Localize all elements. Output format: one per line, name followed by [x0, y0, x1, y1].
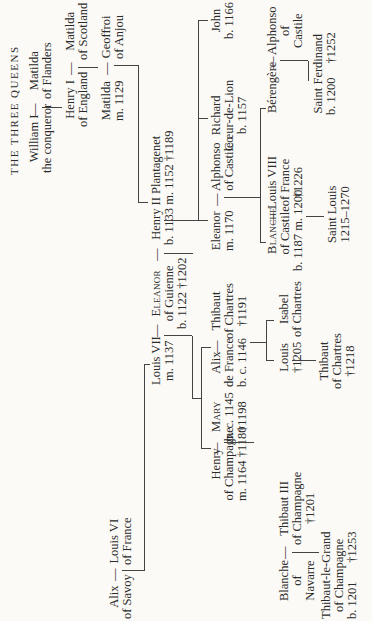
descent-line — [198, 20, 208, 21]
person-eleanor-guienne: Eleanor of Guienne b. 1122 †1202 — [150, 258, 189, 329]
descent-line — [260, 108, 266, 109]
marriage-dash: — — [28, 104, 41, 117]
death: †1252 — [325, 32, 338, 63]
person-thibaut-le-grand: Thibaut-le-Grand of Champagne b. 1201 †1… — [320, 532, 359, 619]
marriage-dash: — — [210, 194, 223, 207]
descent-line — [260, 242, 266, 243]
person-john: John b. 1166 — [210, 2, 236, 39]
marriage-dash: — — [210, 341, 223, 354]
descent-line — [198, 21, 199, 221]
person-saint-ferdinand: Saint Ferdinand b. 1200 †1252 — [312, 32, 338, 115]
descent-line — [292, 552, 318, 553]
death: †1253 — [346, 532, 359, 563]
page-title: THE THREE QUEENS — [8, 45, 21, 175]
descent-line — [201, 348, 202, 449]
name: Bérengère — [266, 62, 279, 113]
descent-line — [78, 67, 98, 68]
person-mary: Mary b. c. 1145 †1198 — [210, 392, 249, 441]
person-alphonso-of-castile: Alphonso of Castile — [266, 6, 305, 55]
person-thibaut-iii: Thibaut III of Champagne †1201 — [278, 472, 317, 545]
person-berengere: Bérengère — [266, 62, 279, 113]
descent-line — [138, 202, 148, 203]
descent-line — [192, 253, 193, 254]
descent-line — [224, 442, 254, 443]
descent-line — [114, 65, 138, 66]
person-blanche-navarre: Blanche of Navarre — [278, 560, 317, 601]
marriage-dash: — — [210, 443, 223, 456]
person-louis-vii: Louis VII m. 1137 — [150, 336, 176, 385]
subtitle-2: Navarre — [304, 560, 317, 601]
person-matilda-scotland: Matilda of Scotland — [64, 3, 90, 60]
person-thibaut-chartres-1218: Thibaut of Chartres †1218 — [318, 333, 357, 389]
person-thibaut-chartres: Thibaut of Chartres †1191 — [210, 283, 249, 339]
subtitle: the conqueror — [41, 104, 54, 173]
subtitle: b. 1133 m. 1152 †1189 — [163, 130, 176, 245]
death: †1226 — [292, 156, 305, 209]
descent-line — [280, 60, 308, 61]
dates: b. c. 1146 — [236, 338, 249, 387]
person-geoffroi: Geoffroi of Anjou — [100, 15, 126, 59]
genealogy-page: THE THREE QUEENS William I the conqueror… — [0, 0, 372, 621]
descent-line — [164, 335, 192, 336]
descent-line — [198, 220, 208, 221]
descent-line — [164, 220, 198, 221]
dates-row: b. 1201 †1253 — [346, 532, 359, 619]
birth: b. 1201 — [346, 582, 359, 620]
person-eleanor-1170: Eleanor m. 1170 — [210, 210, 236, 251]
death: †1218 — [344, 333, 357, 389]
descent-line — [42, 107, 62, 108]
person-louis-chartres: Louis †1205 — [278, 342, 304, 373]
subtitle: of Chartres — [291, 281, 304, 337]
person-richard: Richard Cœur-de-Lion b. 1157 — [210, 80, 249, 151]
person-louis-viii: Louis VIII of France †1226 — [266, 156, 305, 209]
person-isabel-chartres: Isabel of Chartres — [278, 281, 304, 337]
dates-row: b. 1200 †1252 — [325, 32, 338, 115]
subtitle: of Anjou — [113, 15, 126, 59]
marriage-dash: — — [100, 63, 113, 76]
subtitle: of England — [77, 72, 90, 127]
descent-line — [224, 197, 260, 198]
marriage-dash: — — [108, 569, 121, 582]
dates: b. 1157 — [236, 80, 249, 151]
person-henry-ii: Henry II Plantagenet b. 1133 m. 1152 †11… — [150, 130, 176, 245]
descent-line — [250, 342, 266, 343]
death: †1198 — [236, 392, 249, 441]
descent-line — [266, 320, 274, 321]
subtitle: m. 1170 — [223, 210, 236, 251]
person-henry-i: Henry I of England — [64, 72, 90, 127]
descent-line — [266, 360, 274, 361]
birth: b. 1200 — [325, 78, 338, 116]
descent-line — [292, 360, 316, 361]
subtitle: m. 1129 — [113, 80, 126, 121]
subtitle: of Scotland — [77, 3, 90, 60]
person-saint-louis: Saint Louis 1215–1270 — [326, 186, 352, 243]
person-louis-vi: Louis VI of France — [108, 517, 134, 565]
subtitle: of Savoy — [121, 574, 134, 619]
descent-line — [308, 61, 309, 81]
marriage-dash: — — [266, 57, 279, 70]
descent-line — [144, 365, 145, 571]
descent-line — [164, 253, 192, 254]
descent-line — [198, 118, 208, 119]
marriage-dash: — — [64, 63, 77, 76]
marriage-dash: — — [150, 249, 163, 262]
person-matilda: Matilda m. 1129 — [100, 80, 126, 121]
descent-line — [122, 570, 144, 571]
dates: b. 1122 †1202 — [176, 258, 189, 329]
subtitle: of Flanders — [41, 42, 54, 99]
marriage-dash: — — [278, 547, 291, 560]
dates: 1215–1270 — [339, 186, 352, 243]
descent-line — [260, 109, 261, 243]
marriage-dash: — — [266, 213, 279, 226]
descent-line — [192, 336, 193, 399]
death: †1205 — [291, 342, 304, 373]
subtitle-2: Castile — [292, 6, 305, 55]
dates: b. 1166 — [223, 2, 236, 39]
descent-line — [266, 321, 267, 361]
descent-line — [138, 65, 139, 203]
person-matilda-flanders: Matilda of Flanders — [28, 42, 54, 99]
descent-line — [306, 216, 324, 217]
subtitle: m. 1137 — [163, 336, 176, 385]
death: †1201 — [304, 472, 317, 545]
subtitle: of France — [121, 517, 134, 565]
